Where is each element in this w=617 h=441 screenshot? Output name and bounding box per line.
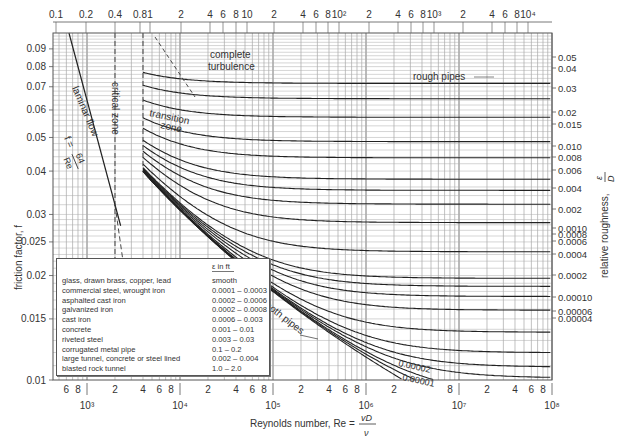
x-major-tick-label: 10⁸ [544, 400, 559, 411]
y-tick-label: 0.08 [27, 61, 47, 72]
y-axis-title: friction factor, f [13, 225, 24, 290]
top-axis-label: 2 [178, 9, 184, 20]
complete-turbulence-boundary [155, 37, 195, 97]
roughness-label: 0.002 [558, 204, 582, 215]
smooth-pipes-leader [300, 335, 318, 339]
x-minor-tick-label: 6 [529, 384, 535, 395]
top-axis-label: 10 [241, 9, 253, 20]
top-axis-label: 8 [420, 9, 426, 20]
y-tick-label: 0.04 [27, 166, 47, 177]
x-minor-tick-label: 6 [343, 384, 349, 395]
x-minor-tick-label: 8 [447, 384, 453, 395]
roughness-label: 0.0004 [558, 249, 587, 260]
svg-text:Re: Re [61, 156, 75, 171]
x-major-tick-label: 10⁷ [452, 400, 467, 411]
x-minor-tick-label: 4 [140, 384, 146, 395]
roughness-label: 0.006 [558, 165, 582, 176]
legend-material: concrete [62, 325, 91, 334]
roughness-label: 0.0002 [558, 270, 587, 281]
roughness-label: 0.015 [558, 119, 582, 130]
legend-row: corrugated metal pipe0.1 – 0.2 [62, 345, 267, 355]
y-tick-label: 0.025 [21, 236, 46, 247]
curve-label-0.00001: 0.00001 [402, 372, 436, 389]
y-tick-label: 0.07 [27, 81, 47, 92]
legend-material: galvanized iron [62, 305, 113, 314]
legend-material: asphalted cast iron [62, 296, 126, 305]
top-axis-label: 0.4 [108, 9, 122, 20]
legend-row: glass, drawn brass, copper, leadsmooth [62, 276, 267, 286]
y2-axis-title: relative roughness, ε D [594, 172, 616, 278]
legend-material: corrugated metal pipe [62, 345, 135, 354]
x-minor-tick-label: 4 [326, 384, 332, 395]
legend-epsilon: 0.002 – 0.004 [212, 354, 258, 363]
roughness-label: 0.03 [558, 83, 577, 94]
x-minor-tick-label: 4 [512, 384, 518, 395]
top-axis-label: 10³ [427, 9, 442, 20]
legend-row: commercial steel, wrought iron0.0001 – 0… [62, 286, 267, 296]
legend-epsilon: 0.0002 – 0.0006 [212, 296, 267, 305]
top-axis-label: 10⁴ [520, 9, 535, 20]
y-tick-label: 0.09 [27, 43, 47, 54]
top-axis-label: 6 [502, 9, 508, 20]
legend-material: commercial steel, wrought iron [62, 286, 165, 295]
y-tick-label: 0.02 [27, 270, 47, 281]
svg-text:Reynolds number, Re =: Reynolds number, Re = [250, 418, 355, 429]
x-minor-tick-label: 8 [168, 384, 174, 395]
x-minor-tick-label: 8 [261, 384, 267, 395]
legend-epsilon: 0.0002 – 0.0008 [212, 305, 267, 314]
legend-material: riveted steel [62, 335, 103, 344]
legend-epsilon: smooth [212, 276, 237, 285]
top-axis-label: 6 [220, 9, 226, 20]
top-axis-label: 2 [271, 9, 277, 20]
roughness-label: 0.00004 [558, 313, 592, 324]
x-minor-tick-label: 2 [391, 384, 397, 395]
x-minor-tick-label: 2 [205, 384, 211, 395]
svg-text:D: D [606, 175, 616, 182]
x-major-tick-label: 10⁶ [358, 400, 373, 411]
x-minor-tick-label: 8 [75, 384, 81, 395]
y-axis: 0.090.080.070.060.050.040.030.0250.020.0… [21, 43, 53, 385]
roughness-label: 0.04 [558, 63, 577, 74]
top-axis-label: 4 [207, 9, 213, 20]
x-minor-tick-label: 8 [540, 384, 546, 395]
roughness-label: 0.010 [558, 141, 582, 152]
svg-text:vD: vD [361, 413, 373, 423]
svg-text:relative roughness,: relative roughness, [599, 194, 610, 279]
legend-row: blasted rock tunnel1.0 – 2.0 [62, 364, 267, 374]
y-tick-label: 0.05 [27, 132, 47, 143]
x-major-tick-label: 10⁵ [265, 400, 280, 411]
x-minor-tick-label: 2 [112, 384, 118, 395]
svg-text:ε: ε [594, 175, 604, 180]
svg-text:ν: ν [364, 428, 369, 438]
legend-row: galvanized iron0.0002 – 0.0008 [62, 305, 267, 315]
x-minor-tick-label: 2 [484, 384, 490, 395]
complete-turbulence-label-1: complete [210, 49, 251, 60]
top-axis: 0.10.20.40.81246810246810²246810³246810⁴ [49, 9, 552, 33]
x-major-tick-label: 10³ [80, 400, 95, 411]
roughness-label: 0.05 [558, 52, 577, 63]
x-major-tick-label: 10⁴ [172, 400, 187, 411]
y-tick-label: 0.01 [27, 375, 47, 386]
top-axis-label: 0.2 [79, 9, 93, 20]
x-minor-tick-label: 6 [250, 384, 256, 395]
legend-material: cast iron [62, 315, 91, 324]
legend-material: glass, drawn brass, copper, lead [62, 276, 171, 285]
legend-epsilon: 0.1 – 0.2 [212, 345, 242, 354]
legend-material: large tunnel, concrete or steel lined [62, 354, 180, 363]
y-tick-label: 0.06 [27, 104, 47, 115]
x-axis-title: Reynolds number, Re = vD ν [250, 413, 376, 438]
roughness-label: 0.0006 [558, 236, 587, 247]
x-minor-tick-label: 6 [157, 384, 163, 395]
legend-epsilon: 0.001 – 0.01 [212, 325, 254, 334]
legend-row: large tunnel, concrete or steel lined0.0… [62, 354, 267, 364]
top-axis-label: 10² [332, 9, 347, 20]
legend-epsilon: 0.0001 – 0.0003 [212, 286, 267, 295]
legend-header: ε in ft [212, 262, 234, 272]
top-axis-label: 6 [313, 9, 319, 20]
y-tick-label: 0.03 [27, 209, 47, 220]
top-axis-label: 4 [489, 9, 495, 20]
roughness-label: 0.02 [558, 107, 577, 118]
roughness-label: 0.00010 [558, 292, 592, 303]
top-axis-label: 6 [408, 9, 414, 20]
top-axis-label: 1 [147, 9, 153, 20]
